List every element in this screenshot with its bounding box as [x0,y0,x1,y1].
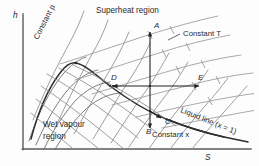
superheat-region-label: Superheat region [96,6,159,15]
point-label-e: E [198,73,204,82]
wet-vapour-region-label-line1: Wet vapour [43,120,85,129]
point-label-b: B [146,127,152,136]
constant-temperature-lines [60,16,259,128]
constant-quality-lines [31,65,176,166]
point-label-d: D [111,73,117,82]
constant-quality-label: Constant x [152,130,189,139]
y-axis-label: h [13,10,18,20]
constant-temperature-label: Constant T [183,29,221,38]
diagram-canvas: Superheat region Wet vapour region Const… [0,0,259,166]
wet-vapour-region-label-line2: region [43,132,66,141]
constant-pressure-label: Constant p [32,3,57,41]
point-label-c: C [165,117,171,126]
point-marker-b-origin [149,110,151,112]
x-axis-label: S [205,152,211,162]
point-marker-mid [149,85,151,87]
point-marker-sat [109,85,111,87]
mollier-diagram-figure: Superheat region Wet vapour region Const… [0,0,259,166]
point-marker-critical [75,62,77,64]
constant-t-leader [168,34,180,40]
point-marker-d [112,85,114,87]
point-label-a: A [153,21,159,30]
